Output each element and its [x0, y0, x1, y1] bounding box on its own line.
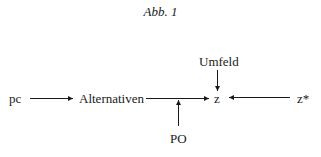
- diagram-arrows: [0, 0, 321, 157]
